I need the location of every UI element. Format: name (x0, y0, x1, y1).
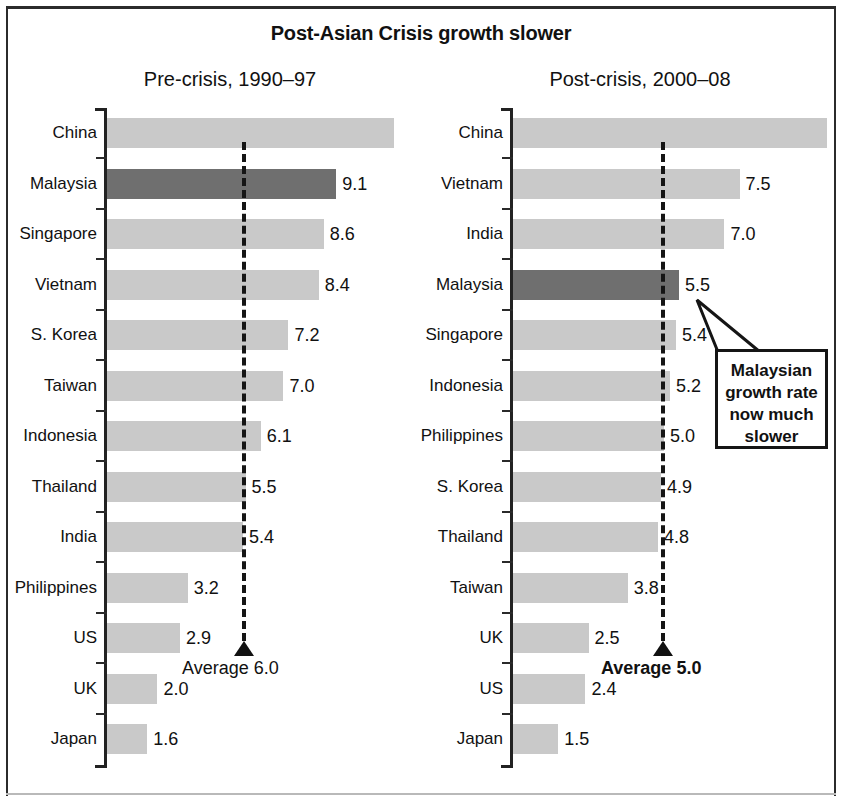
value-label-pre-crisis-japan: 1.6 (153, 724, 178, 754)
value-label-post-crisis-philippines: 5.0 (670, 421, 695, 451)
chart-title: Post-Asian Crisis growth slower (0, 22, 842, 45)
bar-post-crisis-thailand (513, 522, 658, 552)
category-label-post-crisis-us: US (310, 674, 503, 704)
y-axis-tick-pre-crisis-11 (96, 662, 107, 664)
page-frame-top (6, 6, 836, 9)
value-label-post-crisis-vietnam: 7.5 (746, 169, 771, 199)
category-label-post-crisis-indonesia: Indonesia (310, 371, 503, 401)
value-label-post-crisis-s-korea: 4.9 (667, 472, 692, 502)
category-label-pre-crisis-vietnam: Vietnam (0, 270, 97, 300)
category-label-pre-crisis-taiwan: Taiwan (0, 371, 97, 401)
y-axis-tick-pre-crisis-1 (96, 157, 107, 159)
value-label-post-crisis-singapore: 5.4 (682, 320, 707, 350)
average-marker-triangle-pre-crisis (234, 641, 254, 656)
y-axis-tick-post-crisis-11 (502, 662, 513, 664)
bar-pre-crisis-japan (107, 724, 147, 754)
value-label-pre-crisis-philippines: 3.2 (194, 573, 219, 603)
value-label-pre-crisis-thailand: 5.5 (252, 472, 277, 502)
category-label-pre-crisis-philippines: Philippines (0, 573, 97, 603)
panel-title-pre-crisis: Pre-crisis, 1990–97 (60, 68, 400, 91)
y-axis-tick-post-crisis-9 (502, 561, 513, 563)
category-label-pre-crisis-malaysia: Malaysia (0, 169, 97, 199)
callout-line-1: Malaysian (718, 360, 825, 382)
average-label-pre-crisis: Average 6.0 (182, 658, 279, 679)
bar-post-crisis-indonesia (513, 371, 670, 401)
chart-page: Post-Asian Crisis growth slower Pre-cris… (0, 0, 842, 803)
y-axis-tick-post-crisis-6 (502, 410, 513, 412)
value-label-post-crisis-taiwan: 3.8 (634, 573, 659, 603)
value-label-post-crisis-indonesia: 5.2 (676, 371, 701, 401)
callout-annotation: Malaysian growth rate now much slower (715, 349, 828, 449)
bar-post-crisis-china (513, 118, 827, 148)
page-frame-right (834, 6, 836, 796)
bar-pre-crisis-singapore (107, 219, 324, 249)
category-label-pre-crisis-japan: Japan (0, 724, 97, 754)
y-axis-top-cap-post-crisis (501, 108, 513, 111)
bar-post-crisis-us (513, 674, 585, 704)
category-label-post-crisis-japan: Japan (310, 724, 503, 754)
bar-post-crisis-malaysia (513, 270, 679, 300)
category-label-pre-crisis-uk: UK (0, 674, 97, 704)
bar-pre-crisis-us (107, 623, 180, 653)
bar-pre-crisis-s-korea (107, 320, 288, 350)
bar-pre-crisis-india (107, 522, 243, 552)
bar-pre-crisis-taiwan (107, 371, 283, 401)
bar-pre-crisis-philippines (107, 573, 188, 603)
bar-post-crisis-vietnam (513, 169, 740, 199)
category-label-post-crisis-india: India (310, 219, 503, 249)
y-axis-tick-post-crisis-3 (502, 258, 513, 260)
value-label-pre-crisis-india: 5.4 (249, 522, 274, 552)
category-label-post-crisis-singapore: Singapore (310, 320, 503, 350)
category-label-post-crisis-taiwan: Taiwan (310, 573, 503, 603)
y-axis-tick-post-crisis-1 (502, 157, 513, 159)
category-label-post-crisis-uk: UK (310, 623, 503, 653)
y-axis-tick-pre-crisis-5 (96, 359, 107, 361)
category-label-pre-crisis-thailand: Thailand (0, 472, 97, 502)
y-axis-top-cap-pre-crisis (95, 108, 107, 111)
bar-post-crisis-taiwan (513, 573, 628, 603)
category-label-pre-crisis-india: India (0, 522, 97, 552)
y-axis-tick-pre-crisis-10 (96, 612, 107, 614)
category-label-pre-crisis-us: US (0, 623, 97, 653)
category-label-post-crisis-china: China (310, 118, 503, 148)
value-label-post-crisis-japan: 1.5 (564, 724, 589, 754)
bar-pre-crisis-uk (107, 674, 157, 704)
y-axis-tick-post-crisis-7 (502, 460, 513, 462)
bar-post-crisis-singapore (513, 320, 676, 350)
category-label-post-crisis-s-korea: S. Korea (310, 472, 503, 502)
average-marker-triangle-post-crisis (653, 641, 673, 656)
bar-pre-crisis-thailand (107, 472, 246, 502)
category-label-pre-crisis-china: China (0, 118, 97, 148)
value-label-post-crisis-malaysia: 5.5 (685, 270, 710, 300)
y-axis-tick-pre-crisis-4 (96, 309, 107, 311)
category-label-post-crisis-philippines: Philippines (310, 421, 503, 451)
category-label-post-crisis-thailand: Thailand (310, 522, 503, 552)
y-axis-tick-post-crisis-12 (502, 713, 513, 715)
value-label-post-crisis-uk: 2.5 (595, 623, 620, 653)
y-axis-tick-pre-crisis-2 (96, 208, 107, 210)
callout-line-4: slower (718, 426, 825, 448)
bar-post-crisis-india (513, 219, 724, 249)
callout-line-3: now much (718, 404, 825, 426)
panel-title-post-crisis: Post-crisis, 2000–08 (470, 68, 810, 91)
value-label-pre-crisis-us: 2.9 (186, 623, 211, 653)
bar-pre-crisis-malaysia (107, 169, 336, 199)
category-label-pre-crisis-singapore: Singapore (0, 219, 97, 249)
y-axis-tick-post-crisis-8 (502, 511, 513, 513)
y-axis-tick-post-crisis-4 (502, 309, 513, 311)
y-axis-tick-pre-crisis-6 (96, 410, 107, 412)
y-axis-tick-pre-crisis-3 (96, 258, 107, 260)
bar-pre-crisis-vietnam (107, 270, 319, 300)
y-axis-tick-pre-crisis-12 (96, 713, 107, 715)
y-axis-bottom-cap-post-crisis (501, 765, 513, 768)
y-axis-bottom-cap-pre-crisis (95, 765, 107, 768)
y-axis-tick-post-crisis-5 (502, 359, 513, 361)
bar-post-crisis-japan (513, 724, 558, 754)
bar-pre-crisis-indonesia (107, 421, 261, 451)
value-label-pre-crisis-indonesia: 6.1 (267, 421, 292, 451)
category-label-post-crisis-malaysia: Malaysia (310, 270, 503, 300)
value-label-post-crisis-thailand: 4.8 (664, 522, 689, 552)
average-dashed-line-pre-crisis (242, 142, 246, 641)
y-axis-tick-post-crisis-2 (502, 208, 513, 210)
y-axis-tick-pre-crisis-8 (96, 511, 107, 513)
